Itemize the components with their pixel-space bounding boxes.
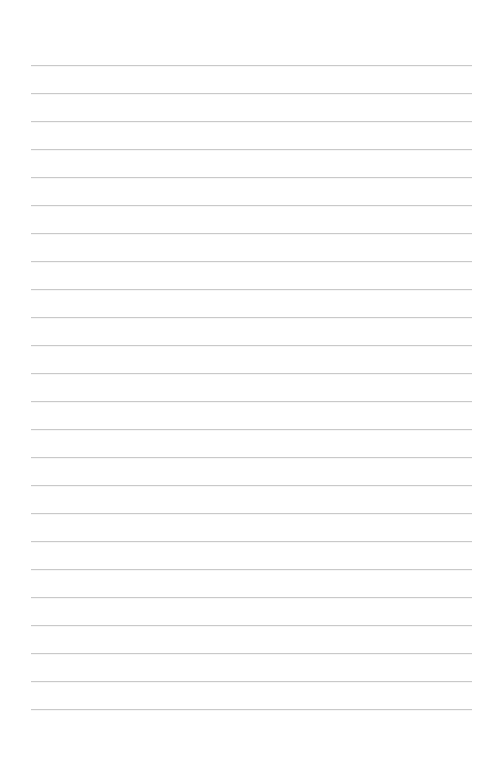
lined-paper-page: [0, 0, 490, 759]
ruled-line: [31, 401, 472, 402]
ruled-line: [31, 317, 472, 318]
ruled-line: [31, 541, 472, 542]
ruled-line: [31, 709, 472, 710]
ruled-line: [31, 177, 472, 178]
ruled-line: [31, 653, 472, 654]
ruled-line: [31, 429, 472, 430]
ruled-line: [31, 681, 472, 682]
ruled-line: [31, 569, 472, 570]
ruled-line: [31, 513, 472, 514]
ruled-line: [31, 457, 472, 458]
ruled-line: [31, 625, 472, 626]
ruled-line: [31, 373, 472, 374]
ruled-line: [31, 345, 472, 346]
ruled-line: [31, 289, 472, 290]
ruled-line: [31, 233, 472, 234]
ruled-line: [31, 65, 472, 66]
ruled-line: [31, 121, 472, 122]
ruled-line: [31, 597, 472, 598]
ruled-line: [31, 485, 472, 486]
ruled-line: [31, 261, 472, 262]
ruled-line: [31, 93, 472, 94]
ruled-line: [31, 149, 472, 150]
ruled-line: [31, 205, 472, 206]
